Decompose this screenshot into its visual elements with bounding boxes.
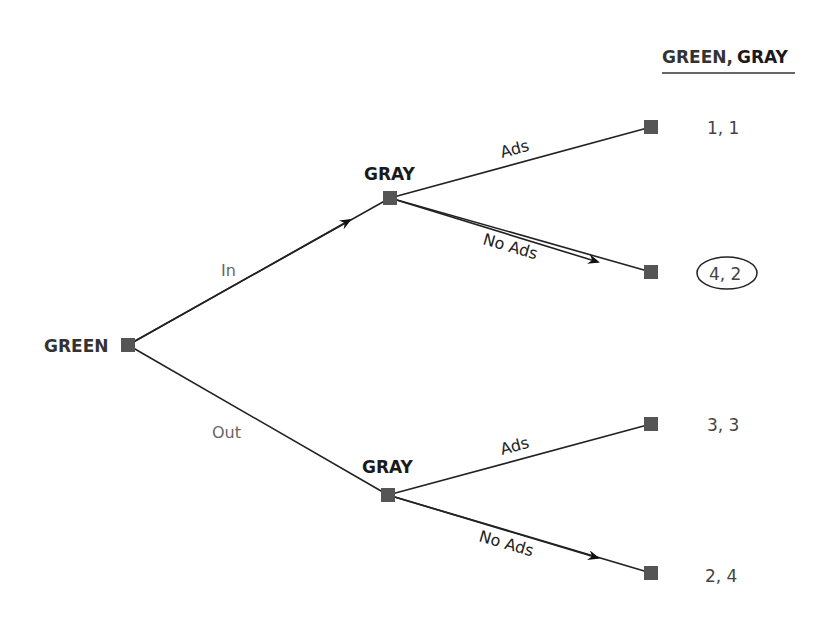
- player-label-root: GREEN: [44, 336, 109, 356]
- node-root: GREEN: [44, 336, 135, 356]
- player-label-lower: GRAY: [362, 457, 414, 477]
- edge-label-in: In: [221, 261, 236, 280]
- header-player2: GRAY: [737, 47, 789, 67]
- game-tree: GREEN, GRAY In Out Ads No Ads Ads No Ads…: [0, 0, 831, 620]
- terminal-node-icon: [644, 265, 658, 279]
- edge-label-lower-ads: Ads: [498, 433, 531, 459]
- payoff-1: 1, 1: [707, 118, 739, 138]
- decision-node-icon: [383, 191, 397, 205]
- edge-label-upper-ads: Ads: [498, 136, 531, 162]
- payoff-4: 2, 4: [705, 566, 737, 586]
- node-lower-gray: GRAY: [362, 457, 414, 502]
- decision-node-icon: [381, 488, 395, 502]
- terminal-node-icon: [644, 120, 658, 134]
- decision-node-icon: [121, 338, 135, 352]
- edge-upper-no-ads: [390, 198, 651, 272]
- edge-out: [128, 345, 388, 495]
- terminal-node-icon: [644, 417, 658, 431]
- edge-label-lower-no-ads: No Ads: [477, 527, 536, 561]
- header-player1: GREEN,: [662, 47, 733, 67]
- payoff-header: GREEN, GRAY: [662, 47, 795, 73]
- player-label-upper: GRAY: [364, 164, 416, 184]
- terminal-node-icon: [644, 566, 658, 580]
- arrow-upper-no-ads-icon: [390, 198, 598, 262]
- payoff-3: 3, 3: [707, 415, 739, 435]
- payoff-2: 4, 2: [709, 264, 741, 284]
- edge-label-out: Out: [212, 423, 241, 442]
- arrow-in-icon: [128, 220, 350, 345]
- node-upper-gray: GRAY: [364, 164, 416, 205]
